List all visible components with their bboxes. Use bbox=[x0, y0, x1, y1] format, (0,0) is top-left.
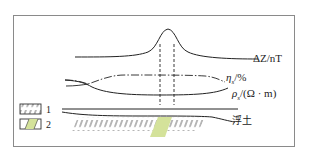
polarizability-curve-left-tail bbox=[66, 84, 88, 86]
eta-unit: /% bbox=[234, 71, 246, 83]
rho-unit: /(Ω · m) bbox=[240, 87, 276, 99]
resistivity-curve bbox=[65, 80, 228, 95]
polarizability-curve bbox=[65, 75, 225, 84]
legend-number-1: 1 bbox=[46, 104, 51, 115]
overburden-label: 浮土 bbox=[232, 116, 252, 126]
magnetic-anomaly-curve bbox=[75, 29, 258, 59]
bedrock-hatching bbox=[72, 117, 205, 131]
polarizability-label: ηs/% bbox=[226, 72, 246, 86]
legend-number-2: 2 bbox=[46, 119, 51, 130]
geophysical-profile-diagram bbox=[0, 0, 309, 157]
legend-box-1 bbox=[20, 104, 41, 114]
resistivity-label: ρs/(Ω · m) bbox=[232, 88, 276, 102]
magnetic-label: ΔZ/nT bbox=[253, 53, 282, 64]
